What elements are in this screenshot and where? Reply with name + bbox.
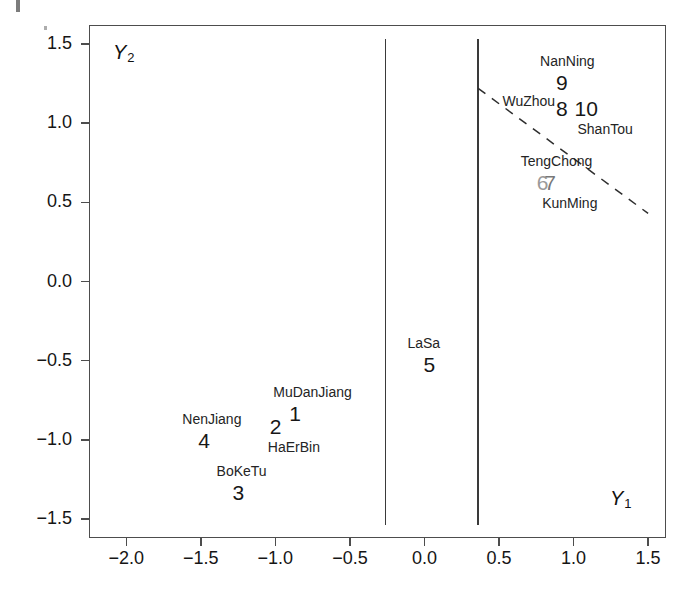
point-name-haerbin: HaErBin [268,440,320,454]
point-id-7: 7 [544,172,597,193]
point-name-nenjiang: NenJiang [182,412,241,426]
data-point-wuzhou: WuZhou8 [556,98,568,119]
point-name-kunming: KunMing [542,196,597,210]
point-id-4: 4 [198,430,241,451]
point-name-shantou: ShanTou [577,122,632,136]
point-name-mudanjiang: MuDanJiang [273,385,352,399]
point-id-10: 10 [574,98,632,119]
point-id-9: 9 [556,72,594,93]
point-name-wuzhou: WuZhou [502,94,556,108]
point-name-tengchong: TengChong [521,154,593,168]
point-id-3: 3 [233,482,267,503]
data-point-boketu: BoKeTu3 [233,464,267,503]
point-name-nanning: NanNing [540,54,594,68]
data-point-haerbin: 2HaErBin [270,416,320,454]
data-point-nanning: NanNing9 [556,54,594,93]
point-id-2: 2 [270,416,320,437]
point-name-boketu: BoKeTu [217,464,267,478]
point-id-5: 5 [423,354,440,375]
data-point-kunming: 7KunMing [544,172,597,210]
data-point-lasa: LaSa5 [423,336,440,375]
data-point-shantou: 10ShanTou [574,98,632,136]
data-point-nenjiang: NenJiang4 [198,412,241,451]
point-name-lasa: LaSa [407,336,440,350]
point-id-8: 8 [556,98,568,119]
scatter-plot-figure: 1.51.00.50.0−0.5−1.0−1.5 −2.0−1.5−1.0−0.… [0,0,695,608]
